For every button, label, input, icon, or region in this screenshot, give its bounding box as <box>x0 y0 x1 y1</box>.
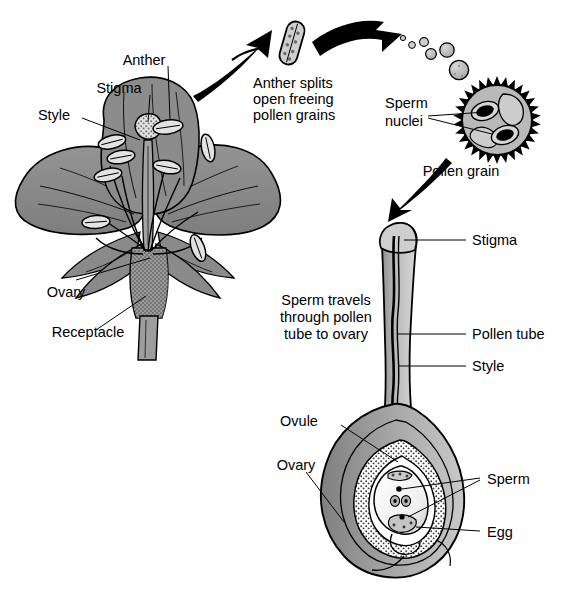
label-ovule: Ovule <box>280 413 318 429</box>
label-egg: Egg <box>487 524 513 540</box>
label-sperm-nuclei-2: nuclei <box>385 113 423 129</box>
label-stigma-tube: Stigma <box>472 232 518 248</box>
flower-stem <box>138 316 158 360</box>
label-anther: Anther <box>123 52 166 68</box>
label-receptacle: Receptacle <box>52 324 125 340</box>
label-sperm-travels-1: Sperm travels <box>281 292 370 308</box>
diagram-canvas: Anther Stigma Style Ovary Receptacle Ant… <box>0 0 571 609</box>
label-pollen-tube: Pollen tube <box>472 326 545 342</box>
label-stigma-flower: Stigma <box>96 80 142 96</box>
label-sperm-travels-2: through pollen <box>280 309 372 325</box>
label-ovary-lower: Ovary <box>277 457 316 473</box>
label-sperm-nuclei-1: Sperm <box>385 95 428 111</box>
arrow-anther-to-pollen <box>312 21 402 56</box>
label-ovary-flower: Ovary <box>47 284 86 300</box>
pollen-grain-cell <box>453 76 541 164</box>
pollen-grains-trail <box>400 35 468 79</box>
figure-svg: Anther Stigma Style Ovary Receptacle Ant… <box>0 0 571 609</box>
sperm-dot-upper <box>396 486 402 492</box>
label-sperm-travels-3: tube to ovary <box>284 326 369 342</box>
egg-cell <box>388 514 416 532</box>
label-sperm: Sperm <box>487 471 530 487</box>
label-pollen-grain: Pollen grain <box>423 163 500 179</box>
label-anther-splits-3: pollen grains <box>253 107 335 123</box>
pistil-cutaway <box>321 223 464 578</box>
label-anther-splits-2: open freeing <box>253 91 334 107</box>
label-style-tube: Style <box>472 358 504 374</box>
label-anther-splits-1: Anther splits <box>253 75 333 91</box>
label-style-flower: Style <box>38 107 70 123</box>
